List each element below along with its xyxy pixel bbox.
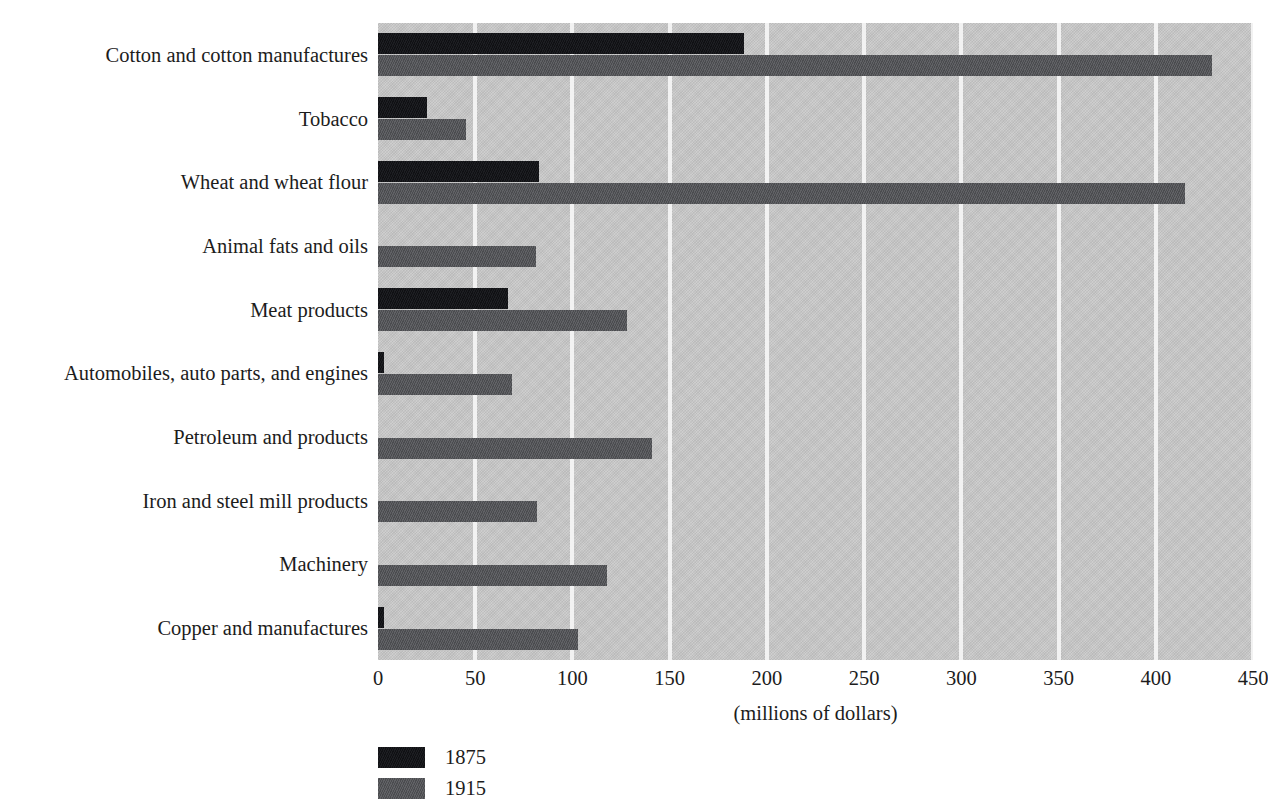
category-label: Petroleum and products <box>0 427 368 448</box>
bar-group <box>378 543 1253 586</box>
category-label: Machinery <box>0 554 368 575</box>
bar-1915 <box>378 119 466 140</box>
bar-group <box>378 33 1253 76</box>
x-tick-label-300: 300 <box>946 668 977 689</box>
x-axis-title: (millions of dollars) <box>378 703 1253 724</box>
bar-group <box>378 97 1253 140</box>
bar-1915 <box>378 565 607 586</box>
category-label: Wheat and wheat flour <box>0 172 368 193</box>
x-tick-label-150: 150 <box>654 668 685 689</box>
x-tick-label-0: 0 <box>373 668 383 689</box>
category-label: Cotton and cotton manufactures <box>0 45 368 66</box>
bar-group <box>378 607 1253 650</box>
x-tick-label-450: 450 <box>1238 668 1268 689</box>
bar-1915 <box>378 310 627 331</box>
legend-label-1875: 1875 <box>445 744 486 770</box>
bar-group <box>378 416 1253 459</box>
x-tick-label-350: 350 <box>1043 668 1074 689</box>
x-tick-label-50: 50 <box>465 668 486 689</box>
x-tick-label-250: 250 <box>849 668 880 689</box>
bar-1915 <box>378 183 1185 204</box>
category-label: Copper and manufactures <box>0 618 368 639</box>
series-1875-swatch <box>378 747 425 768</box>
bar-group <box>378 479 1253 522</box>
plot-area <box>378 23 1253 660</box>
category-label: Automobiles, auto parts, and engines <box>0 363 368 384</box>
bar-1875 <box>378 607 384 628</box>
category-label: Tobacco <box>0 109 368 130</box>
bar-group <box>378 161 1253 204</box>
bar-1915 <box>378 374 512 395</box>
bar-1915 <box>378 438 652 459</box>
bar-1915 <box>378 246 536 267</box>
bar-group <box>378 288 1253 331</box>
bar-group <box>378 352 1253 395</box>
bar-1875 <box>378 33 744 54</box>
series-1915-swatch <box>378 778 425 799</box>
bar-1875 <box>378 161 539 182</box>
x-tick-label-200: 200 <box>752 668 783 689</box>
bar-group <box>378 224 1253 267</box>
bar-1915 <box>378 55 1212 76</box>
bar-1875 <box>378 352 384 373</box>
x-tick-label-400: 400 <box>1140 668 1171 689</box>
category-label: Iron and steel mill products <box>0 491 368 512</box>
x-tick-label-100: 100 <box>557 668 588 689</box>
category-label: Meat products <box>0 300 368 321</box>
bar-1875 <box>378 97 427 118</box>
bar-1915 <box>378 501 537 522</box>
legend-label-1915: 1915 <box>445 775 486 801</box>
bar-1915 <box>378 629 578 650</box>
category-label: Animal fats and oils <box>0 236 368 257</box>
bar-1875 <box>378 288 508 309</box>
